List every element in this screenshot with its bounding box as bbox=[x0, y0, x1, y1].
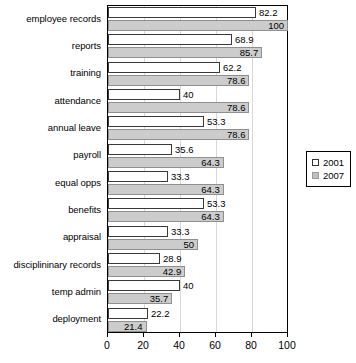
bar-value-label-2001: 62.2 bbox=[220, 62, 242, 73]
category-label: training bbox=[0, 68, 101, 78]
bar-group: 4078.6 bbox=[108, 88, 287, 115]
bar-value-label-2007: 100 bbox=[268, 20, 288, 31]
bar-2001 bbox=[108, 280, 180, 291]
x-axis-tick bbox=[251, 333, 252, 337]
bar-2001 bbox=[108, 62, 220, 73]
bar-group: 82.2100 bbox=[108, 6, 287, 33]
category-label: benefits bbox=[0, 205, 101, 215]
bar-2001 bbox=[108, 7, 256, 18]
x-axis-tick-label: 40 bbox=[173, 339, 185, 351]
category-label: temp admin bbox=[0, 287, 101, 297]
bar-value-label-2007: 50 bbox=[183, 239, 198, 250]
x-axis-tick bbox=[107, 333, 108, 337]
legend-item: 2001 bbox=[312, 156, 344, 169]
bar-2001 bbox=[108, 171, 168, 182]
category-label: appraisal bbox=[0, 232, 101, 242]
bar-value-label-2007: 35.7 bbox=[150, 293, 173, 304]
open-square-swatch bbox=[312, 159, 319, 166]
bar-group: 68.985.7 bbox=[108, 33, 287, 60]
x-axis-tick bbox=[179, 333, 180, 337]
x-axis-tick-label: 100 bbox=[278, 339, 296, 351]
category-label: attendance bbox=[0, 96, 101, 106]
x-axis: 020406080100 bbox=[107, 333, 288, 357]
x-axis-tick-label: 20 bbox=[137, 339, 149, 351]
bar-value-label-2001: 53.3 bbox=[204, 198, 226, 209]
category-label: annual leave bbox=[0, 123, 101, 133]
category-label: employee records bbox=[0, 14, 101, 24]
bar-value-label-2007: 64.3 bbox=[201, 211, 224, 222]
category-label: disciplininary records bbox=[0, 260, 101, 270]
bar-value-label-2001: 53.3 bbox=[204, 116, 226, 127]
bar-value-label-2007: 78.6 bbox=[227, 129, 250, 140]
chart-legend: 20012007 bbox=[306, 151, 351, 187]
x-axis-tick-label: 0 bbox=[104, 339, 110, 351]
bar-value-label-2007: 21.4 bbox=[124, 321, 147, 332]
x-axis-tick-label: 80 bbox=[245, 339, 257, 351]
bar-value-label-2001: 68.9 bbox=[232, 34, 254, 45]
bar-2001 bbox=[108, 144, 172, 155]
bar-value-label-2001: 33.3 bbox=[168, 226, 190, 237]
bar-2001 bbox=[108, 226, 168, 237]
bar-value-label-2007: 85.7 bbox=[240, 47, 263, 58]
x-axis-tick bbox=[143, 333, 144, 337]
bar-value-label-2007: 42.9 bbox=[163, 266, 186, 277]
x-axis-tick-label: 60 bbox=[209, 339, 221, 351]
legend-item: 2007 bbox=[312, 169, 344, 182]
bar-group: 53.378.6 bbox=[108, 115, 287, 142]
bar-2001 bbox=[108, 198, 204, 209]
bar-value-label-2007: 78.6 bbox=[227, 75, 250, 86]
bar-value-label-2001: 33.3 bbox=[168, 171, 190, 182]
bar-2001 bbox=[108, 34, 232, 45]
category-label: reports bbox=[0, 41, 101, 51]
bar-2001 bbox=[108, 308, 148, 319]
bar-value-label-2007: 78.6 bbox=[227, 102, 250, 113]
bar-value-label-2007: 64.3 bbox=[201, 184, 224, 195]
bar-2001 bbox=[108, 89, 180, 100]
bar-value-label-2007: 64.3 bbox=[201, 157, 224, 168]
legend-label: 2001 bbox=[323, 157, 344, 168]
x-axis-tick bbox=[287, 333, 288, 337]
bar-group: 4035.7 bbox=[108, 279, 287, 306]
bar-2007 bbox=[108, 20, 288, 31]
bar-value-label-2001: 40 bbox=[180, 89, 194, 100]
x-axis-tick bbox=[215, 333, 216, 337]
grouped-bar-chart: employee recordsreportstrainingattendanc… bbox=[0, 0, 356, 363]
bar-value-label-2001: 22.2 bbox=[148, 308, 170, 319]
plot-area: 82.210068.985.762.278.64078.653.378.635.… bbox=[107, 5, 288, 333]
gray-square-swatch bbox=[312, 172, 319, 179]
bar-group: 35.664.3 bbox=[108, 143, 287, 170]
category-label: deployment bbox=[0, 314, 101, 324]
bar-group: 22.221.4 bbox=[108, 307, 287, 334]
bar-group: 62.278.6 bbox=[108, 61, 287, 88]
category-label: equal opps bbox=[0, 178, 101, 188]
bar-group: 28.942.9 bbox=[108, 252, 287, 279]
bar-group: 33.350 bbox=[108, 225, 287, 252]
bar-2001 bbox=[108, 253, 160, 264]
bar-value-label-2001: 35.6 bbox=[172, 144, 194, 155]
bar-value-label-2001: 82.2 bbox=[256, 7, 278, 18]
bar-group: 53.364.3 bbox=[108, 197, 287, 224]
bar-2001 bbox=[108, 116, 204, 127]
category-label: payroll bbox=[0, 150, 101, 160]
category-axis-labels: employee recordsreportstrainingattendanc… bbox=[0, 5, 104, 333]
bar-value-label-2001: 28.9 bbox=[160, 253, 182, 264]
legend-label: 2007 bbox=[323, 170, 344, 181]
bar-group: 33.364.3 bbox=[108, 170, 287, 197]
bar-value-label-2001: 40 bbox=[180, 280, 194, 291]
